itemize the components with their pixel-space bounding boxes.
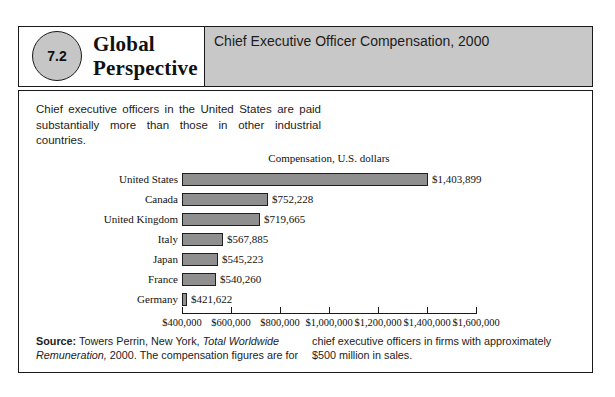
bar-category-label: France	[19, 273, 178, 286]
bar-row: Germany$421,622	[19, 293, 594, 306]
bar-value-label: $567,885	[227, 233, 268, 246]
x-axis-tick	[476, 307, 477, 313]
bar	[182, 193, 268, 206]
source-text-2: 2000. The compensation figures are for	[107, 349, 298, 361]
bar-row: Canada$752,228	[19, 193, 594, 206]
x-axis-tick	[378, 307, 379, 313]
bar-category-label: Japan	[19, 253, 178, 266]
x-axis-tick-label: $1,600,000	[440, 317, 512, 328]
series-title-line1: Global	[93, 32, 198, 56]
intro-paragraph: Chief executive officers in the United S…	[36, 102, 321, 149]
chart-title: Compensation, U.S. dollars	[182, 152, 476, 164]
bar-row: Japan$545,223	[19, 253, 594, 266]
bar-category-label: United States	[19, 173, 178, 186]
bar-row: France$540,260	[19, 273, 594, 286]
source-label: Source:	[36, 335, 76, 347]
section-number-badge: 7.2	[32, 31, 82, 81]
bar-row: United States$1,403,899	[19, 173, 594, 186]
box-title: Chief Executive Officer Compensation, 20…	[214, 33, 489, 49]
bar	[182, 233, 223, 246]
bar	[182, 173, 428, 186]
source-note-column-1: Source: Towers Perrin, New York, Total W…	[36, 335, 308, 363]
bar	[182, 273, 216, 286]
bar-value-label: $421,622	[191, 293, 232, 306]
bar	[182, 253, 218, 266]
series-title-line2: Perspective	[93, 56, 198, 80]
source-text-1: Towers Perrin, New York,	[76, 335, 202, 347]
bar-value-label: $1,403,899	[432, 173, 482, 186]
bar	[182, 293, 187, 306]
series-title: Global Perspective	[93, 32, 198, 80]
bar-category-label: Italy	[19, 233, 178, 246]
section-number: 7.2	[47, 48, 66, 64]
global-perspective-header-box: 7.2 Global Perspective Chief Executive O…	[18, 26, 593, 87]
x-axis-tick	[280, 307, 281, 313]
bar-row: Italy$567,885	[19, 233, 594, 246]
x-axis-line	[182, 313, 477, 314]
bar-row: United Kingdom$719,665	[19, 213, 594, 226]
bar-category-label: Germany	[19, 293, 178, 306]
header-title-band: Chief Executive Officer Compensation, 20…	[204, 27, 592, 86]
bar-value-label: $545,223	[222, 253, 263, 266]
bar	[182, 213, 260, 226]
bar-value-label: $540,260	[220, 273, 261, 286]
ceo-compensation-bar-chart: Compensation, U.S. dollars United States…	[19, 151, 594, 336]
bar-category-label: Canada	[19, 193, 178, 206]
x-axis-tick	[427, 307, 428, 313]
x-axis-tick	[182, 307, 183, 313]
bar-value-label: $752,228	[272, 193, 313, 206]
header-left-cell: 7.2 Global Perspective	[19, 27, 204, 86]
source-note-column-2: chief executive officers in firms with a…	[312, 335, 578, 363]
bar-category-label: United Kingdom	[19, 213, 178, 226]
x-axis-tick	[329, 307, 330, 313]
bar-value-label: $719,665	[264, 213, 305, 226]
content-box: Chief executive officers in the United S…	[18, 90, 593, 373]
x-axis-tick	[231, 307, 232, 313]
